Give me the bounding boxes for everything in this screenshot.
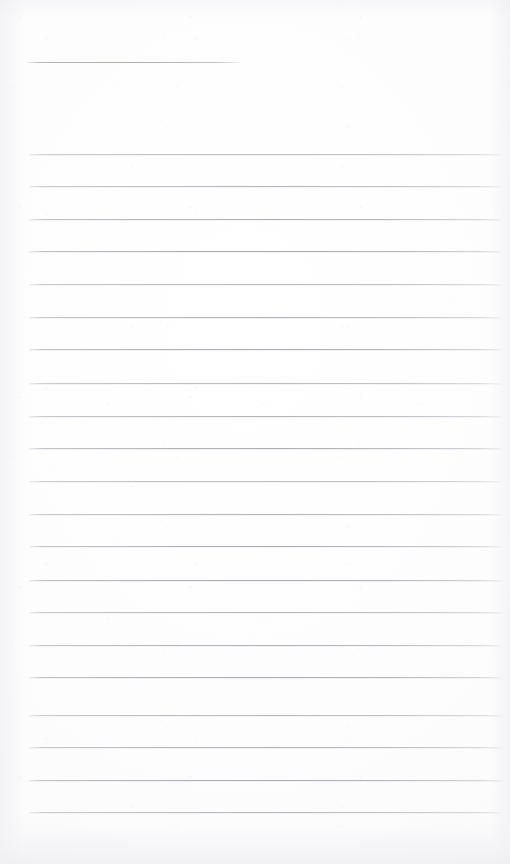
ruled-line (29, 349, 501, 350)
ruled-line (29, 154, 501, 155)
ruled-line (29, 186, 501, 187)
ruled-line (29, 780, 501, 781)
ruled-line (29, 317, 501, 318)
ruled-lines-layer (0, 0, 510, 864)
ruled-line (29, 514, 501, 515)
ruled-line (29, 481, 501, 482)
ruled-line (29, 812, 501, 813)
notepaper-page (0, 0, 510, 864)
ruled-line (29, 715, 501, 716)
ruled-line (29, 284, 501, 285)
ruled-line (29, 546, 501, 547)
ruled-line (29, 383, 501, 384)
ruled-line (29, 448, 501, 449)
ruled-line (29, 612, 501, 613)
ruled-line (29, 416, 501, 417)
ruled-line (29, 580, 501, 581)
ruled-line (29, 645, 501, 646)
ruled-line (29, 219, 501, 220)
ruled-line (29, 677, 501, 678)
ruled-line (29, 747, 501, 748)
ruled-line (29, 251, 501, 252)
